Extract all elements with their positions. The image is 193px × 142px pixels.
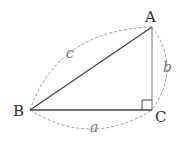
side-label-b: b <box>163 59 172 75</box>
right-angle-marker <box>142 100 152 110</box>
vertex-label-c: C <box>155 108 166 126</box>
triangle-diagram: A B C c b a <box>0 0 193 142</box>
side-label-c: c <box>66 45 74 61</box>
vertex-label-a: A <box>144 8 156 26</box>
side-label-a: a <box>90 119 98 135</box>
vertex-label-b: B <box>13 102 24 120</box>
